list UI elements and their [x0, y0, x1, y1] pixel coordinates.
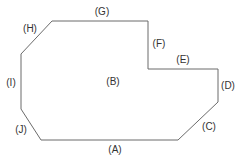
- edge-label-h: (H): [23, 24, 37, 34]
- diagram-canvas: (A) (B) (C) (D) (E) (F) (G) (H) (I) (J): [0, 0, 246, 165]
- edge-label-e: (E): [176, 55, 189, 65]
- interior-label-b: (B): [106, 77, 119, 87]
- edge-label-j: (J): [15, 125, 27, 135]
- edge-label-i: (I): [6, 78, 15, 88]
- edge-label-g: (G): [95, 7, 109, 17]
- edge-label-a: (A): [108, 145, 121, 155]
- edge-label-c: (C): [202, 122, 216, 132]
- edge-label-f: (F): [153, 39, 166, 49]
- edge-label-d: (D): [221, 81, 235, 91]
